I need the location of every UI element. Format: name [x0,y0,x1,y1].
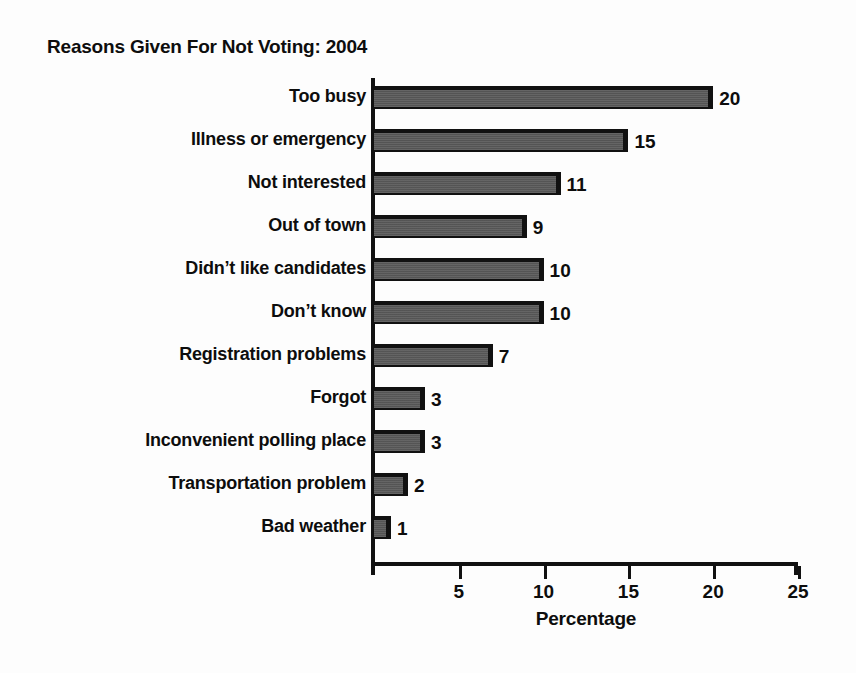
bar [374,516,391,539]
chart-title: Reasons Given For Not Voting: 2004 [47,36,367,58]
category-label: Out of town [36,215,366,236]
category-label: Don’t know [36,301,366,322]
x-axis-tick-label: 15 [598,581,658,603]
bar [374,473,408,496]
bar-value-label: 3 [431,430,442,453]
category-label: Registration problems [36,344,366,365]
x-axis-tick-label: 20 [683,581,743,603]
x-axis-tick-label: 5 [429,581,489,603]
bar [374,387,425,410]
bar [374,344,493,367]
x-axis-tick [798,566,801,579]
bar-value-label: 2 [414,473,425,496]
bar-value-label: 10 [550,258,571,281]
x-axis-spine [371,562,798,566]
bar [374,301,544,324]
bar-value-label: 7 [499,344,510,367]
x-axis-title: Percentage [374,608,798,630]
bar [374,129,628,152]
bar [374,86,713,109]
bar-value-label: 9 [533,215,544,238]
bar [374,172,561,195]
category-label: Forgot [36,387,366,408]
x-axis-left-cap [371,562,375,575]
x-axis-tick-label: 10 [514,581,574,603]
bar-value-label: 10 [550,301,571,324]
chart-figure: Reasons Given For Not Voting: 2004 Too b… [0,0,856,673]
category-label: Illness or emergency [36,129,366,150]
bar [374,258,544,281]
category-label: Didn’t like candidates [36,258,366,279]
x-axis-tick-label: 25 [768,581,828,603]
bar-value-label: 20 [719,86,740,109]
category-label: Inconvenient polling place [36,430,366,451]
x-axis-tick [628,566,631,579]
bar [374,215,527,238]
x-axis-tick [713,566,716,579]
category-label: Bad weather [36,516,366,537]
category-axis-labels: Too busy Illness or emergency Not intere… [30,78,366,562]
bar [374,430,425,453]
x-axis-tick [459,566,462,579]
category-label: Not interested [36,172,366,193]
category-label: Transportation problem [36,473,366,494]
x-axis-tick [544,566,547,579]
bar-value-label: 11 [567,172,587,195]
bar-value-label: 15 [634,129,655,152]
bar-value-label: 1 [397,516,408,539]
category-label: Too busy [36,86,366,107]
bar-value-label: 3 [431,387,442,410]
plot-area: 20 15 11 9 10 10 7 3 [374,78,798,562]
